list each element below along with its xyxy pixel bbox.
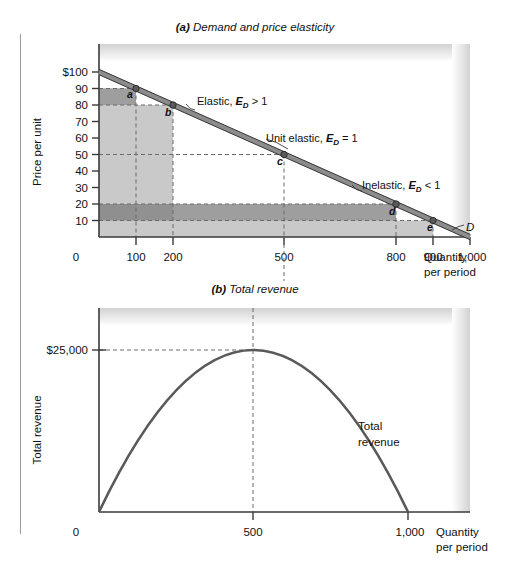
panel-a-ytick-9: 10 xyxy=(75,215,88,227)
point-label-b: b xyxy=(165,106,172,118)
demand-curve-label: D xyxy=(466,221,474,233)
panel-a-ytick-2: 80 xyxy=(75,99,88,111)
annotation-unit-elastic: Unit elastic, ED = 1 xyxy=(266,132,358,147)
panel-b-right-shading xyxy=(452,308,470,512)
point-label-a: a xyxy=(127,88,133,100)
panel-b-xtick-labels: 0 500 1,000 xyxy=(73,526,425,538)
panel-a-title-text: Demand and price elasticity xyxy=(190,21,336,33)
panel-a-ytick-6: 40 xyxy=(75,165,88,177)
panel-a-xlabel-line2: per period xyxy=(424,266,476,278)
panel-a-title-prefix: (a) xyxy=(176,21,190,33)
panel-a-ytick-3: 70 xyxy=(75,116,88,128)
revenue-rect-a-d-overlap xyxy=(99,204,136,221)
panel-b-title: (b) Total revenue xyxy=(211,283,298,295)
annotation-unit-tail: = 1 xyxy=(339,132,358,144)
panel-a-ytick-1: 90 xyxy=(75,83,88,95)
panel-b-xlabel-line1: Quantity xyxy=(436,526,479,538)
tr-curve-label-line2: revenue xyxy=(358,436,400,448)
panel-a-right-shading xyxy=(452,44,470,237)
annotation-inelastic-text: Inelastic, xyxy=(362,179,408,191)
panel-a-ytick-7: 30 xyxy=(75,182,88,194)
panel-b-title-text: Total revenue xyxy=(226,283,298,295)
annotation-unit-text: Unit elastic, xyxy=(266,132,326,144)
panel-a-ylabel: Price per unit xyxy=(31,117,43,186)
panel-a-ytick-8: 20 xyxy=(75,198,88,210)
figure-root: (a) Demand and price elasticity xyxy=(0,0,510,566)
panel-b-axes xyxy=(99,308,470,512)
panel-b-title-prefix: (b) xyxy=(211,283,226,295)
panel-b-top-shading xyxy=(99,308,470,326)
panel-a-ytick-marks xyxy=(92,72,99,221)
panel-a-ytick-4: 60 xyxy=(75,132,88,144)
q500-connector-line xyxy=(253,237,284,512)
panel-a-xtick-2: 200 xyxy=(163,251,182,263)
revenue-rect-b-d-overlap xyxy=(136,204,173,221)
panel-a-ytick-labels: $100 90 80 70 60 50 40 30 20 10 xyxy=(62,66,88,227)
panel-a-ytick-5: 50 xyxy=(75,149,88,161)
panel-a-ytick-0: $100 xyxy=(62,66,88,78)
annotation-elastic: Elastic, ED > 1 xyxy=(197,95,267,110)
panel-a-xtick-1: 100 xyxy=(126,251,145,263)
panel-b-ylabel: Total revenue xyxy=(31,395,43,464)
annotation-elastic-text: Elastic, xyxy=(197,95,236,107)
annotation-inelastic-tail: < 1 xyxy=(422,179,441,191)
point-a-marker xyxy=(133,85,139,91)
point-label-c: c xyxy=(277,155,283,167)
panel-a-xtick-0: 0 xyxy=(73,251,79,263)
panel-a-xlabel-line1: Quantity xyxy=(424,251,467,263)
point-label-e: e xyxy=(427,221,433,233)
panel-b-xtick-1: 500 xyxy=(243,526,262,538)
panel-a-title: (a) Demand and price elasticity xyxy=(176,21,336,33)
panel-b-xtick-marks xyxy=(253,512,408,520)
panel-a-xtick-4: 800 xyxy=(386,251,405,263)
figure-svg: (a) Demand and price elasticity xyxy=(0,0,510,566)
panel-b-xtick-2: 1,000 xyxy=(396,526,425,538)
panel-a-top-shading xyxy=(99,44,470,62)
panel-b-ytick-0: $25,000 xyxy=(46,344,88,356)
panel-b-xtick-0: 0 xyxy=(73,526,79,538)
panel-b-xlabel-line2: per period xyxy=(436,541,488,553)
tr-curve-label-line1: Total xyxy=(358,420,382,432)
point-label-d: d xyxy=(389,205,396,217)
panel-a-xtick-marks xyxy=(136,237,470,245)
annotation-elastic-tail: > 1 xyxy=(249,95,268,107)
